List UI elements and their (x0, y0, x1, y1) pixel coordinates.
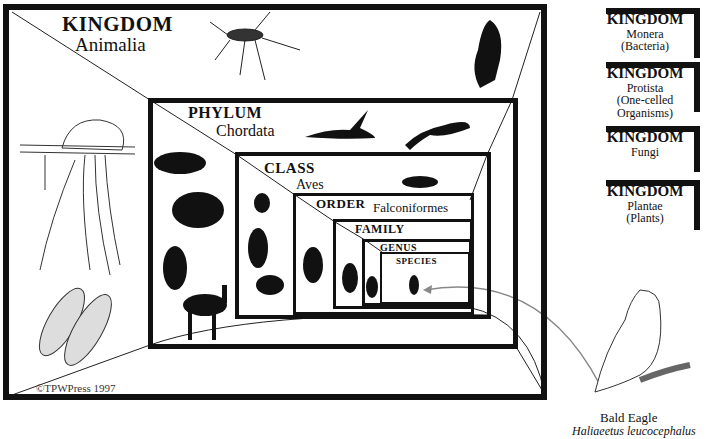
bird-silhouette-icon (474, 20, 501, 88)
hummingbird-icon (254, 193, 270, 213)
subject-scientific-name: Haliaeetus leucocephalus (572, 424, 696, 439)
bird-silhouette-icon (303, 247, 323, 283)
kingdom-plantae-box: KINGDOM Plantae (Plants) (594, 180, 696, 225)
bird-silhouette-icon (163, 246, 187, 290)
lizard-icon (405, 122, 470, 150)
deer-icon (183, 285, 227, 340)
duck-icon (402, 176, 438, 188)
portuguese-man-o-war-icon (20, 120, 135, 275)
clam-shell-icon (31, 282, 120, 372)
frog-icon (172, 192, 224, 228)
kingdom-protista-box: KINGDOM Protista (One-celled Organisms) (594, 62, 696, 120)
heron-icon (305, 110, 375, 139)
bald-eagle-icon (595, 290, 690, 392)
copyright-text: ©TPWPress 1997 (36, 382, 116, 394)
kingdom-monera-box: KINGDOM Monera (Bacteria) (594, 8, 696, 53)
falcon-icon (409, 275, 419, 295)
robin-icon (256, 275, 284, 295)
bird-silhouette-icon (342, 263, 358, 293)
bird-silhouette-icon (366, 276, 378, 298)
fish-icon (154, 152, 206, 174)
mosquito-icon (210, 12, 300, 80)
kingdom-fungi-box: KINGDOM Fungi (594, 126, 696, 158)
bird-silhouette-icon (248, 228, 268, 268)
